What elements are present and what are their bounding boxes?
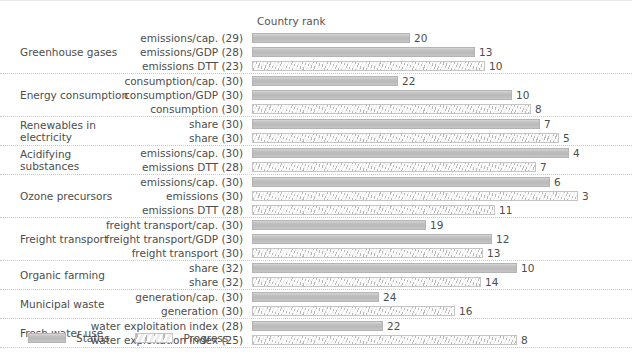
legend-item-progress[interactable]: Progress [135,332,228,344]
chart-row[interactable]: emissions DTT (23)10 [0,59,632,73]
chart-row[interactable]: generation (30)16 [0,304,632,318]
status-bar[interactable] [252,220,426,230]
chart-row[interactable]: share (30)5 [0,131,632,145]
row-label: freight transport (30) [0,246,243,260]
bar-container: 4 [252,148,580,158]
bar-container: 16 [252,306,472,316]
row-label: share (30) [0,131,243,145]
chart-row[interactable]: emissions/cap. (29)20 [0,31,632,45]
bar-container: 10 [252,263,534,273]
bar-value-label: 4 [573,148,580,158]
chart-row[interactable]: emissions (30)3 [0,189,632,203]
status-bar[interactable] [252,177,550,187]
chart-row[interactable]: consumption/GDP (30)10 [0,88,632,102]
chart-row[interactable]: share (32)10 [0,261,632,275]
legend-label: Progress [183,332,228,344]
country-rank-chart: Country rank Greenhouse gasesemissions/c… [0,0,632,356]
progress-bar[interactable] [252,191,578,201]
row-label: emissions/cap. (30) [0,146,243,160]
bar-value-label: 7 [540,162,547,172]
legend-item-status[interactable]: Status [28,332,109,344]
bar-container: 24 [252,292,396,302]
bar-value-label: 13 [487,248,500,258]
indicator-group: Greenhouse gasesemissions/cap. (29)20emi… [0,31,632,74]
row-label: consumption (30) [0,102,243,116]
status-bar[interactable] [252,263,517,273]
chart-row[interactable]: share (30)7 [0,117,632,131]
chart-row[interactable]: emissions DTT (28)11 [0,203,632,217]
progress-bar[interactable] [252,205,495,215]
bar-value-label: 10 [516,90,529,100]
bar-container: 11 [252,205,512,215]
row-label: generation/cap. (30) [0,290,243,304]
indicator-group: Energy consumptionconsumption/cap. (30)2… [0,74,632,117]
progress-bar[interactable] [252,133,559,143]
bar-value-label: 14 [485,277,498,287]
chart-row[interactable]: generation/cap. (30)24 [0,290,632,304]
group-rows: share (32)10share (32)14 [0,261,632,289]
status-bar[interactable] [252,33,410,43]
chart-row[interactable]: freight transport (30)13 [0,246,632,260]
bar-container: 7 [252,162,547,172]
chart-row[interactable]: emissions/GDP (28)13 [0,45,632,59]
bar-value-label: 19 [430,220,443,230]
row-label: emissions/GDP (28) [0,45,243,59]
chart-row[interactable]: emissions/cap. (30)6 [0,175,632,189]
bar-value-label: 16 [459,306,472,316]
indicator-group: Freight transportfreight transport/cap. … [0,218,632,261]
status-bar[interactable] [252,90,512,100]
legend-label: Status [76,332,109,344]
status-bar[interactable] [252,47,475,57]
chart-row[interactable]: share (32)14 [0,275,632,289]
bar-value-label: 3 [582,191,589,201]
bar-value-label: 20 [414,33,427,43]
bar-value-label: 7 [544,119,551,129]
bar-value-label: 22 [402,76,415,86]
bar-value-label: 5 [563,133,570,143]
bar-container: 13 [252,47,492,57]
progress-bar[interactable] [252,162,536,172]
bar-container: 13 [252,248,500,258]
chart-row[interactable]: consumption/cap. (30)22 [0,74,632,88]
chart-row[interactable]: freight transport/cap. (30)19 [0,218,632,232]
chart-row[interactable]: emissions/cap. (30)4 [0,146,632,160]
progress-bar[interactable] [252,104,531,114]
row-label: emissions DTT (28) [0,160,243,174]
row-label: share (30) [0,117,243,131]
progress-bar[interactable] [252,277,481,287]
chart-header: Country rank [0,1,632,31]
group-rows: freight transport/cap. (30)19freight tra… [0,218,632,260]
status-bar[interactable] [252,234,492,244]
axis-title: Country rank [257,15,326,27]
group-rows: generation/cap. (30)24generation (30)16 [0,290,632,318]
group-rows: emissions/cap. (30)6emissions (30)3emiss… [0,175,632,217]
group-rows: emissions/cap. (29)20emissions/GDP (28)1… [0,31,632,73]
row-label: emissions DTT (23) [0,59,243,73]
chart-row[interactable]: consumption (30)8 [0,102,632,116]
progress-bar[interactable] [252,306,455,316]
progress-bar[interactable] [252,61,485,71]
row-label: freight transport/cap. (30) [0,218,243,232]
status-bar[interactable] [252,148,569,158]
indicator-group: Acidifying substancesemissions/cap. (30)… [0,146,632,175]
progress-bar[interactable] [252,248,483,258]
chart-row[interactable]: freight transport/GDP (30)12 [0,232,632,246]
status-bar[interactable] [252,292,379,302]
group-rows: share (30)7share (30)5 [0,117,632,145]
status-bar[interactable] [252,119,540,129]
bar-value-label: 24 [383,292,396,302]
bar-container: 10 [252,90,529,100]
row-label: emissions/cap. (30) [0,175,243,189]
group-rows: emissions/cap. (30)4emissions DTT (28)7 [0,146,632,174]
status-bar[interactable] [252,76,398,86]
bar-container: 8 [252,104,542,114]
group-rows: consumption/cap. (30)22consumption/GDP (… [0,74,632,116]
bar-container: 20 [252,33,427,43]
row-label: emissions DTT (28) [0,203,243,217]
bar-value-label: 6 [554,177,561,187]
bar-container: 22 [252,76,415,86]
bar-container: 12 [252,234,509,244]
chart-row[interactable]: emissions DTT (28)7 [0,160,632,174]
row-label: emissions (30) [0,189,243,203]
indicator-group: Renewables in electricityshare (30)7shar… [0,117,632,146]
